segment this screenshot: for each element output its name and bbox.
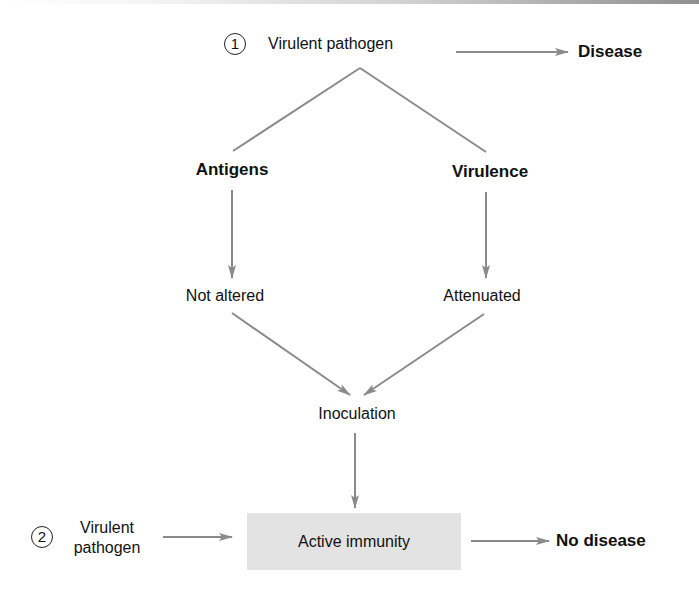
- node-not-altered: Not altered: [186, 287, 264, 305]
- arrow-attenuated-to-inoculation: [364, 314, 484, 395]
- node-antigens: Antigens: [196, 161, 269, 179]
- line-pathogen-to-virulence: [360, 68, 486, 152]
- arrow-not-altered-to-inoculation: [232, 313, 350, 395]
- node-virulence: Virulence: [452, 163, 528, 181]
- node-inoculation: Inoculation: [318, 405, 395, 423]
- step-number-1: 1: [224, 33, 246, 55]
- connector-lines: [0, 0, 699, 592]
- node-no-disease: No disease: [556, 532, 646, 550]
- node-virulent-pathogen-2-line2: pathogen: [74, 539, 141, 557]
- node-attenuated: Attenuated: [443, 287, 520, 305]
- line-pathogen-to-antigens: [233, 68, 360, 151]
- node-virulent-pathogen-2-line1: Virulent: [80, 519, 134, 537]
- node-active-immunity-box: Active immunity: [247, 513, 461, 570]
- node-active-immunity: Active immunity: [298, 533, 410, 551]
- step-number-2: 2: [31, 526, 53, 548]
- node-disease: Disease: [578, 43, 642, 61]
- node-virulent-pathogen-1: Virulent pathogen: [268, 35, 393, 53]
